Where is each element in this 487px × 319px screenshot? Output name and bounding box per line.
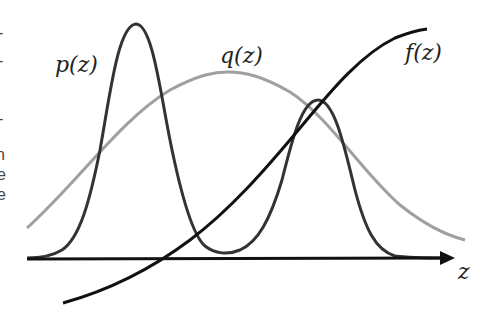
z-axis-label: z [457,259,470,284]
q-label: q(z) [220,43,263,68]
svg-text:-: - [0,52,3,69]
arrowhead-icon [440,251,455,265]
svg-text:-: - [0,24,3,41]
f-label: f(z) [403,40,442,65]
left-edge-text: - - ) - n e e [0,24,6,203]
svg-text:n: n [0,146,5,163]
p-label: p(z) [55,52,98,77]
svg-text:e: e [0,186,6,203]
svg-text:-: - [0,110,3,127]
q-curve [27,72,465,240]
svg-text:e: e [0,166,6,183]
f-curve [63,29,427,303]
diagram-canvas: - - ) - n e e p(z) q(z) f(z) z [0,0,487,319]
